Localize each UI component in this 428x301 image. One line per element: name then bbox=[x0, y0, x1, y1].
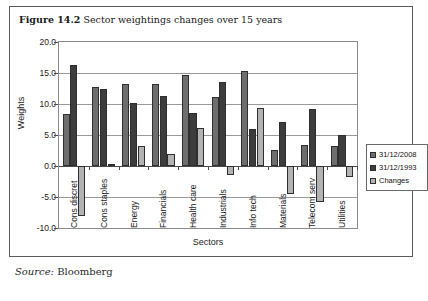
bar bbox=[227, 166, 234, 175]
bar bbox=[63, 114, 70, 166]
x-category-label: Industrials bbox=[219, 189, 228, 228]
source-line: Source: Bloomberg bbox=[15, 266, 113, 277]
bar bbox=[167, 154, 174, 166]
chart-area: Weights 20.015.010.05.00.0-5.0-10.0 Cons… bbox=[14, 32, 408, 254]
x-tick-mark bbox=[268, 166, 269, 170]
y-tick-label: -10.0 bbox=[20, 224, 56, 232]
y-tick-mark bbox=[54, 73, 58, 74]
bar bbox=[182, 75, 189, 166]
source-label: Source: bbox=[15, 266, 54, 277]
bar bbox=[160, 96, 167, 166]
bar bbox=[257, 108, 264, 166]
legend-swatch bbox=[370, 165, 376, 171]
legend-label: 31/12/2008 bbox=[379, 150, 417, 159]
chart-legend: 31/12/200831/12/1993Changes bbox=[366, 144, 428, 191]
legend-item[interactable]: 31/12/1993 bbox=[370, 161, 424, 174]
legend-swatch bbox=[370, 178, 376, 184]
x-category-label: Info tech bbox=[249, 195, 258, 228]
x-tick-mark bbox=[357, 166, 358, 170]
y-tick-mark bbox=[54, 135, 58, 136]
bar bbox=[219, 82, 226, 166]
x-category-label: Energy bbox=[130, 201, 139, 228]
y-tick-mark bbox=[54, 166, 58, 167]
source-value: Bloomberg bbox=[57, 266, 113, 277]
bar bbox=[189, 113, 196, 166]
bar bbox=[70, 65, 77, 166]
x-tick-mark bbox=[238, 166, 239, 170]
y-tick-mark bbox=[54, 42, 58, 43]
x-tick-mark bbox=[208, 166, 209, 170]
x-category-label: Health care bbox=[189, 185, 198, 228]
legend-item[interactable]: 31/12/2008 bbox=[370, 148, 424, 161]
bar bbox=[279, 122, 286, 166]
bar bbox=[100, 89, 107, 166]
bar bbox=[271, 150, 278, 166]
x-tick-mark bbox=[297, 166, 298, 170]
y-tick-label: 5.0 bbox=[20, 131, 56, 139]
bar bbox=[197, 128, 204, 166]
bar bbox=[212, 97, 219, 166]
y-tick-label: 20.0 bbox=[20, 38, 56, 46]
y-tick-label: 10.0 bbox=[20, 100, 56, 108]
bar bbox=[346, 166, 353, 177]
bar bbox=[338, 135, 345, 166]
bar bbox=[309, 109, 316, 166]
legend-label: Changes bbox=[379, 176, 409, 185]
bar bbox=[152, 84, 159, 166]
legend-swatch bbox=[370, 152, 376, 158]
bar bbox=[316, 166, 323, 202]
figure-caption-text: Sector weightings changes over 15 years bbox=[83, 14, 282, 25]
y-tick-label: -5.0 bbox=[20, 193, 56, 201]
x-tick-mark bbox=[178, 166, 179, 170]
y-tick-label: 0.0 bbox=[20, 162, 56, 170]
x-category-label: Cons staples bbox=[100, 179, 109, 228]
figure-number: Figure 14.2 bbox=[19, 14, 80, 25]
bar bbox=[92, 87, 99, 166]
bar bbox=[138, 146, 145, 166]
x-category-label: Cons discret bbox=[70, 181, 79, 228]
y-tick-mark bbox=[54, 228, 58, 229]
bar bbox=[122, 84, 129, 166]
bar bbox=[78, 166, 85, 216]
bar bbox=[108, 164, 115, 166]
x-category-label: Materials bbox=[279, 194, 288, 228]
bar bbox=[241, 71, 248, 166]
x-category-label: Financials bbox=[159, 190, 168, 228]
x-category-label: Utilities bbox=[338, 201, 347, 228]
x-tick-mark bbox=[89, 166, 90, 170]
x-category-label: Telecom serv bbox=[308, 178, 317, 228]
x-tick-mark bbox=[119, 166, 120, 170]
bar bbox=[130, 103, 137, 166]
legend-label: 31/12/1993 bbox=[379, 163, 417, 172]
y-tick-mark bbox=[54, 104, 58, 105]
bar bbox=[287, 166, 294, 194]
x-tick-mark bbox=[327, 166, 328, 170]
legend-item[interactable]: Changes bbox=[370, 174, 424, 187]
y-tick-mark bbox=[54, 197, 58, 198]
bar bbox=[331, 146, 338, 166]
bar bbox=[301, 145, 308, 166]
x-tick-mark bbox=[148, 166, 149, 170]
bar bbox=[249, 129, 256, 166]
x-axis-title: Sectors bbox=[58, 237, 358, 247]
figure-caption: Figure 14.2 Sector weightings changes ov… bbox=[19, 12, 409, 28]
y-tick-label: 15.0 bbox=[20, 69, 56, 77]
